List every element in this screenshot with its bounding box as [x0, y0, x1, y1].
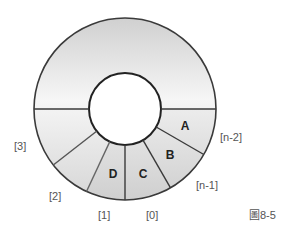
index-label-2: [2] [49, 190, 61, 202]
inner-circle [89, 73, 161, 145]
index-label-n-2: [n-2] [220, 131, 242, 143]
figure-caption: 圖8-5 [249, 209, 276, 221]
index-label-3: [3] [14, 140, 26, 152]
index-label-n-1: [n-1] [196, 179, 218, 191]
cell-content-d: D [109, 167, 118, 181]
cell-content-a: A [181, 119, 190, 133]
index-label-0: [0] [146, 209, 158, 221]
circular-queue-diagram: A B C D [n-2] [n-1] [0] [1] [2] [3] 圖8-5 [0, 0, 285, 234]
index-label-1: [1] [98, 209, 110, 221]
cell-content-c: C [139, 167, 148, 181]
cell-content-b: B [166, 148, 175, 162]
